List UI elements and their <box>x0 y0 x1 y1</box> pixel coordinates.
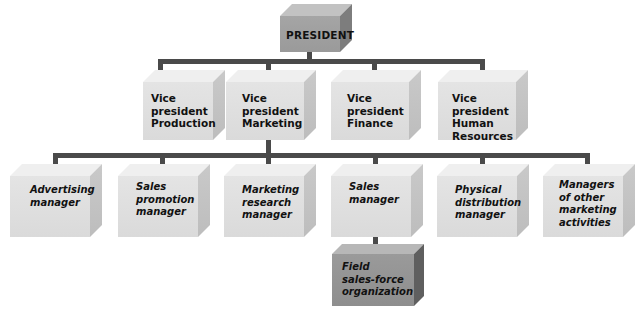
other-marketing-managers-box: Managers of other marketing activities <box>543 164 635 237</box>
advertising-manager-box: Advertising manager <box>10 164 102 237</box>
vp-marketing-box: Vice president Marketing <box>226 70 316 140</box>
vp-production-box: Vice president Production <box>143 70 225 140</box>
president-label: PRESIDENT <box>286 29 354 42</box>
vp-hr-label: Vice president Human Resources <box>452 92 513 142</box>
advertising-manager-label: Advertising manager <box>30 184 95 209</box>
vp-production-label: Vice president Production <box>151 92 216 130</box>
sales-promotion-manager-box: Sales promotion manager <box>118 164 210 237</box>
other-marketing-managers-label: Managers of other marketing activities <box>559 179 617 229</box>
marketing-research-manager-box: Marketing research manager <box>224 164 316 237</box>
president-box: PRESIDENT <box>280 4 352 52</box>
field-sales-force-label: Field sales-force organization <box>342 261 413 299</box>
vp-finance-box: Vice president Finance <box>331 70 421 140</box>
vp-hr-box: Vice president Human Resources <box>438 70 528 140</box>
vp-marketing-label: Vice president Marketing <box>242 92 302 130</box>
connector-manager-bus <box>53 153 590 158</box>
physical-distribution-manager-label: Physical distribution manager <box>455 184 521 222</box>
sales-manager-label: Sales manager <box>349 181 399 206</box>
sales-promotion-manager-label: Sales promotion manager <box>136 181 194 219</box>
marketing-research-manager-label: Marketing research manager <box>242 184 299 222</box>
sales-manager-box: Sales manager <box>331 164 423 237</box>
vp-finance-label: Vice president Finance <box>347 92 404 130</box>
physical-distribution-manager-box: Physical distribution manager <box>437 164 529 237</box>
connector-vp-bus <box>158 59 485 64</box>
field-sales-force-box: Field sales-force organization <box>332 244 424 306</box>
